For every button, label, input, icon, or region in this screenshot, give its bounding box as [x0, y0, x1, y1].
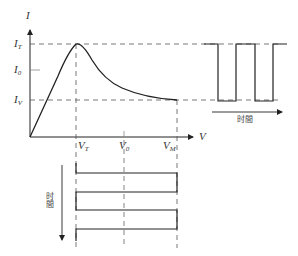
voltage-waveform: [76, 163, 177, 241]
diagram-canvas: [0, 0, 298, 256]
label-vm: VM: [163, 140, 176, 153]
label-it: IT: [14, 38, 22, 51]
current-waveform: [204, 44, 287, 101]
time-label-horizontal: 时間: [237, 116, 253, 124]
label-v0: V0: [119, 140, 129, 153]
iv-diagram: I V IT I0 IV VT V0 VM 时間 时間: [0, 0, 298, 256]
voltage-axis-label: V: [199, 131, 206, 142]
time-label-vertical: 时間: [44, 192, 52, 208]
label-vt: VT: [78, 140, 89, 153]
iv-curve: [30, 44, 177, 137]
label-iv: IV: [14, 94, 22, 107]
current-axis-label: I: [26, 10, 30, 21]
label-i0: I0: [14, 64, 21, 77]
